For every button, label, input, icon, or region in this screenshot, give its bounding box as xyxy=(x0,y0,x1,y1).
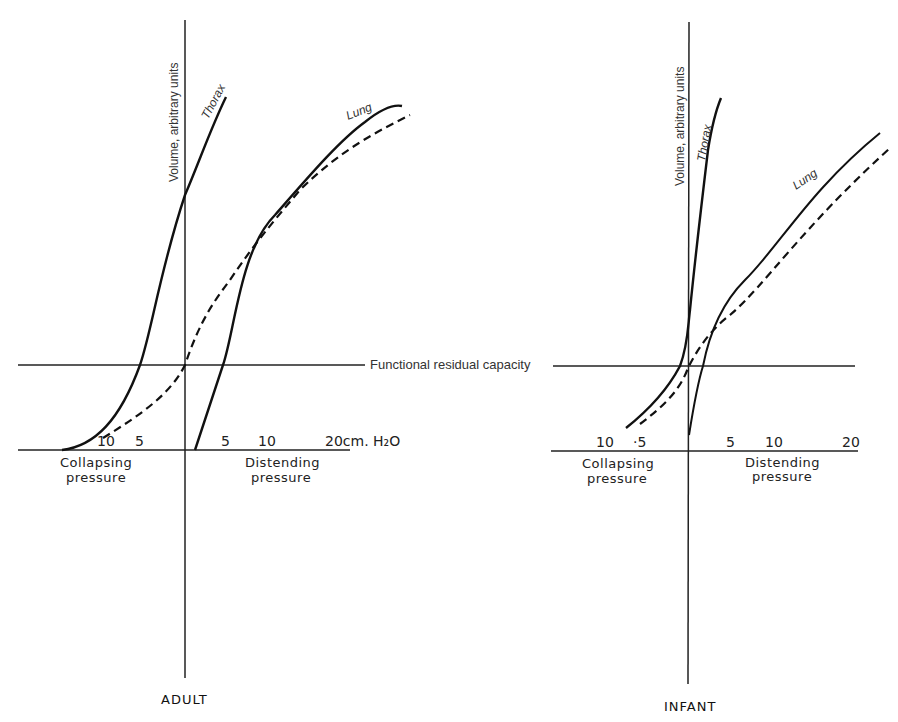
infant-tick-right-5: 5 xyxy=(726,434,735,450)
infant-distending-pressure-label: pressure xyxy=(752,469,812,484)
adult-panel-title: ADULT xyxy=(161,692,208,707)
adult-combined-curve xyxy=(103,115,410,438)
figure-canvas: Volume, arbitrary units Thorax Lung 10 5… xyxy=(0,0,898,722)
infant-tick-left-5: ·5 xyxy=(633,434,646,450)
infant-thorax-label: Thorax xyxy=(694,122,714,162)
adult-collapsing-pressure-label: pressure xyxy=(66,470,126,485)
infant-tick-right-10: 10 xyxy=(765,434,783,450)
infant-tick-left-10: 10 xyxy=(596,434,614,450)
adult-thorax-curve xyxy=(62,97,226,450)
infant-panel: Volume, arbitrary units Thorax Lung 10 ·… xyxy=(551,22,890,714)
adult-tick-right-20-unit: 20cm. H₂O xyxy=(325,433,400,449)
adult-panel: Volume, arbitrary units Thorax Lung 10 5… xyxy=(18,20,410,707)
adult-lung-curve xyxy=(195,106,402,450)
infant-collapsing-pressure-label: pressure xyxy=(587,471,647,486)
infant-combined-curve xyxy=(640,148,890,424)
frc-label: Functional residual capacity xyxy=(370,357,531,372)
adult-tick-right-10: 10 xyxy=(258,433,276,449)
adult-y-axis-label: Volume, arbitrary units xyxy=(167,63,181,182)
adult-distending-pressure-label: pressure xyxy=(251,470,311,485)
adult-tick-right-5: 5 xyxy=(221,433,230,449)
adult-distending-label: Distending xyxy=(245,455,320,470)
adult-tick-left-5: 5 xyxy=(135,433,144,449)
infant-volume-axis xyxy=(688,22,689,684)
infant-collapsing-label: Collapsing xyxy=(582,456,654,471)
infant-tick-right-20: 20 xyxy=(842,434,860,450)
infant-lung-curve xyxy=(689,133,880,435)
adult-collapsing-label: Collapsing xyxy=(60,455,132,470)
infant-lung-label: Lung xyxy=(790,166,820,193)
adult-tick-left-10: 10 xyxy=(97,433,115,449)
infant-y-axis-label: Volume, arbitrary units xyxy=(673,67,687,186)
infant-distending-label: Distending xyxy=(745,455,820,470)
infant-panel-title: INFANT xyxy=(664,699,716,714)
